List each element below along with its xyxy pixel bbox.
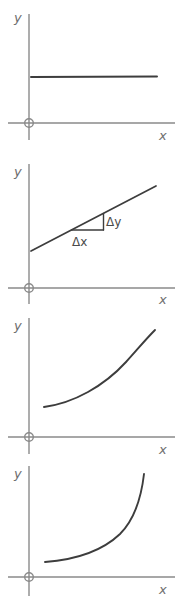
figure-sheet: y x Δy Δx y x y [0, 0, 181, 606]
y-axis-label: y [13, 10, 22, 25]
y-axis-label: y [13, 164, 22, 179]
curve-linear [31, 186, 156, 251]
delta-y-label: Δy [106, 215, 121, 229]
curve-constant [31, 76, 157, 77]
delta-x-label: Δx [72, 235, 87, 249]
curve-convex-steep [45, 474, 144, 562]
panel-convex-gentle-plot: y x [0, 310, 181, 460]
panel-convex-steep: y x [0, 460, 181, 606]
panel-linear: Δy Δx y x [0, 152, 181, 310]
x-axis-label: x [158, 128, 167, 143]
x-axis-label: x [158, 582, 167, 597]
x-axis-label: x [158, 442, 167, 457]
y-axis-label: y [13, 318, 22, 333]
panel-convex-steep-plot: y x [0, 460, 181, 606]
curve-convex-gentle [44, 330, 155, 407]
panel-constant: y x [0, 0, 181, 152]
panel-constant-plot: y x [0, 0, 181, 152]
y-axis-label: y [13, 466, 22, 481]
x-axis-label: x [158, 292, 167, 307]
panel-linear-plot: Δy Δx y x [0, 152, 181, 310]
panel-convex-gentle: y x [0, 310, 181, 460]
